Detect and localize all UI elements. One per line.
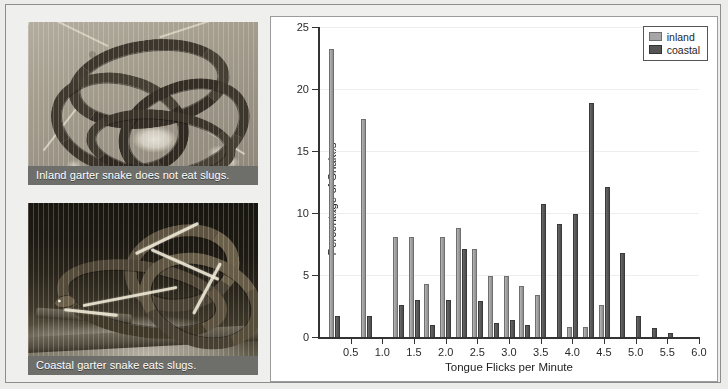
histogram-chart: Percentage of Snakes Tongue Flicks per M… <box>270 16 718 382</box>
legend-label-coastal: coastal <box>667 44 700 56</box>
y-tick <box>312 89 319 90</box>
bar-inland <box>393 237 398 337</box>
bar-coastal <box>605 187 610 337</box>
plot-area: 0510152025 0.51.01.52.02.53.03.54.04.55.… <box>319 27 699 337</box>
bar-coastal <box>589 103 594 337</box>
bar-coastal <box>415 300 420 337</box>
x-tick <box>382 338 383 344</box>
y-axis <box>318 27 320 338</box>
bar-coastal <box>636 316 641 337</box>
x-tick <box>414 338 415 344</box>
x-tick-label: 2.0 <box>438 346 453 358</box>
photo-inland-garter-snake: Inland garter snake does not eat slugs. <box>28 22 258 185</box>
x-tick-label: 5.0 <box>628 346 643 358</box>
bar-inland <box>456 228 461 337</box>
x-tick-label: 1.0 <box>375 346 390 358</box>
y-tick-label: 0 <box>303 331 309 343</box>
x-tick <box>572 338 573 344</box>
x-tick <box>446 338 447 344</box>
bar-inland <box>440 237 445 337</box>
x-tick <box>604 338 605 344</box>
gridline <box>319 213 699 214</box>
bar-coastal <box>399 305 404 337</box>
bar-inland <box>519 286 524 337</box>
x-tick <box>509 338 510 344</box>
x-tick-label: 2.5 <box>470 346 485 358</box>
bar-inland <box>488 276 493 337</box>
x-tick-label: 6.0 <box>691 346 706 358</box>
bar-inland <box>599 305 604 337</box>
bar-inland <box>472 249 477 337</box>
photo-caption-coastal: Coastal garter snake eats slugs. <box>28 356 258 375</box>
bar-inland <box>504 276 509 337</box>
gridline <box>319 275 699 276</box>
x-tick-label: 3.0 <box>501 346 516 358</box>
y-tick <box>312 275 319 276</box>
x-tick-label: 5.5 <box>660 346 675 358</box>
y-tick <box>312 213 319 214</box>
y-tick-label: 5 <box>303 269 309 281</box>
y-tick-label: 25 <box>297 21 309 33</box>
gridline <box>319 151 699 152</box>
y-tick-label: 10 <box>297 207 309 219</box>
bar-coastal <box>494 323 499 337</box>
inland-snake-image <box>28 22 258 185</box>
x-tick <box>541 338 542 344</box>
bar-coastal <box>557 224 562 337</box>
bar-coastal <box>462 249 467 337</box>
bar-coastal <box>335 316 340 337</box>
figure-frame: Inland garter snake does not eat slugs. <box>5 4 721 383</box>
x-tick-label: 4.0 <box>565 346 580 358</box>
legend-item-inland: inland <box>649 30 700 43</box>
bar-inland <box>567 327 572 337</box>
bar-inland <box>535 295 540 337</box>
bar-coastal <box>446 300 451 337</box>
x-axis-label: Tongue Flicks per Minute <box>319 361 699 373</box>
x-tick-label: 4.5 <box>596 346 611 358</box>
coastal-snake-image <box>28 203 258 375</box>
chart-legend: inland coastal <box>643 26 708 61</box>
x-tick <box>477 338 478 344</box>
y-tick-label: 20 <box>297 83 309 95</box>
legend-swatch-inland <box>649 32 662 41</box>
photo-caption-inland: Inland garter snake does not eat slugs. <box>28 166 258 185</box>
bar-coastal <box>510 320 515 337</box>
legend-swatch-coastal <box>649 45 662 54</box>
x-tick <box>351 338 352 344</box>
bar-inland <box>361 119 366 337</box>
photo-coastal-garter-snake: Coastal garter snake eats slugs. <box>28 203 258 375</box>
bar-coastal <box>573 214 578 337</box>
bar-coastal <box>620 253 625 337</box>
bar-inland <box>424 284 429 337</box>
y-tick <box>312 151 319 152</box>
bar-coastal <box>525 325 530 337</box>
x-tick-label: 3.5 <box>533 346 548 358</box>
x-tick <box>636 338 637 344</box>
bar-coastal <box>478 301 483 337</box>
bar-coastal <box>430 325 435 337</box>
y-tick-label: 15 <box>297 145 309 157</box>
x-tick-label: 1.5 <box>406 346 421 358</box>
bar-coastal <box>652 328 657 337</box>
bar-inland <box>329 49 334 337</box>
bar-inland <box>583 327 588 337</box>
bar-coastal <box>668 333 673 337</box>
x-tick-label: 0.5 <box>343 346 358 358</box>
y-tick <box>312 27 319 28</box>
x-tick <box>699 338 700 344</box>
legend-label-inland: inland <box>667 31 695 43</box>
bar-coastal <box>367 316 372 337</box>
y-tick <box>312 337 319 338</box>
figure-panel: Inland garter snake does not eat slugs. <box>0 0 728 389</box>
x-tick <box>667 338 668 344</box>
bar-coastal <box>541 204 546 337</box>
legend-item-coastal: coastal <box>649 43 700 56</box>
bar-inland <box>409 237 414 337</box>
gridline <box>319 89 699 90</box>
